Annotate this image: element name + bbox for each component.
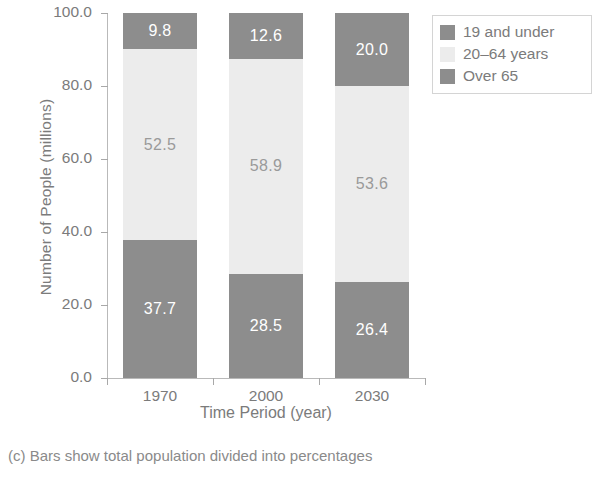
x-axis-tick-label: 2000 xyxy=(249,387,283,405)
x-axis-tick-mark xyxy=(319,378,320,385)
y-axis-tick: 60.0 xyxy=(101,159,108,160)
figure-caption: (c) Bars show total population divided i… xyxy=(8,447,372,464)
x-axis-tick-label: 1970 xyxy=(143,387,177,405)
y-axis-tick: 80.0 xyxy=(101,86,108,87)
y-axis-tick: 100.0 xyxy=(101,13,108,14)
bar-segment[interactable]: 26.4 xyxy=(335,282,409,378)
bar-segment[interactable]: 12.6 xyxy=(229,13,303,59)
x-axis-tick-mark xyxy=(425,378,426,385)
legend-item-label: 20–64 years xyxy=(463,45,548,63)
legend-item[interactable]: Over 65 xyxy=(440,65,584,87)
legend-item[interactable]: 20–64 years xyxy=(440,43,584,65)
x-axis-line xyxy=(107,378,426,379)
y-axis-tick-mark xyxy=(101,13,108,14)
y-axis-tick-label: 20.0 xyxy=(62,295,92,313)
bar-segment[interactable]: 20.0 xyxy=(335,13,409,86)
y-axis-tick-label: 60.0 xyxy=(62,149,92,167)
bar-segment[interactable]: 52.5 xyxy=(123,49,197,241)
y-axis-tick-label: 40.0 xyxy=(62,222,92,240)
stacked-bar-chart-figure: Number of People (millions) 0.020.040.06… xyxy=(0,0,596,479)
x-axis-tick-mark xyxy=(213,378,214,385)
y-axis-title: Number of People (millions) xyxy=(37,47,55,347)
y-axis-tick-label: 0.0 xyxy=(70,368,92,386)
bar-segment[interactable]: 58.9 xyxy=(229,59,303,274)
x-axis-tick-mark xyxy=(107,378,108,385)
legend-swatch-icon xyxy=(440,47,455,62)
bar-segment[interactable]: 53.6 xyxy=(335,86,409,282)
y-axis-tick-label: 80.0 xyxy=(62,76,92,94)
legend-swatch-icon xyxy=(440,25,455,40)
legend-item[interactable]: 19 and under xyxy=(440,21,584,43)
stacked-bar[interactable]: 28.558.912.6 xyxy=(229,13,303,378)
bar-segment[interactable]: 9.8 xyxy=(123,13,197,49)
y-axis-tick-mark xyxy=(101,305,108,306)
x-axis-title: Time Period (year) xyxy=(107,404,425,422)
y-axis-tick-mark xyxy=(101,159,108,160)
bar-segment[interactable]: 28.5 xyxy=(229,274,303,378)
plot-area: 0.020.040.060.080.0100.0 197020002030 37… xyxy=(107,13,425,378)
y-axis-tick-label: 100.0 xyxy=(53,3,92,21)
legend-swatch-icon xyxy=(440,69,455,84)
y-axis-tick: 40.0 xyxy=(101,232,108,233)
stacked-bar[interactable]: 26.453.620.0 xyxy=(335,13,409,378)
bar-segment[interactable]: 37.7 xyxy=(123,240,197,378)
chart-legend: 19 and under20–64 yearsOver 65 xyxy=(432,15,592,94)
x-axis-tick-label: 2030 xyxy=(355,387,389,405)
y-axis-tick-mark xyxy=(101,232,108,233)
y-axis-tick: 20.0 xyxy=(101,305,108,306)
legend-item-label: 19 and under xyxy=(463,23,554,41)
stacked-bar[interactable]: 37.752.59.8 xyxy=(123,13,197,378)
y-axis-tick-mark xyxy=(101,86,108,87)
legend-item-label: Over 65 xyxy=(463,67,518,85)
y-axis-line xyxy=(107,13,108,379)
